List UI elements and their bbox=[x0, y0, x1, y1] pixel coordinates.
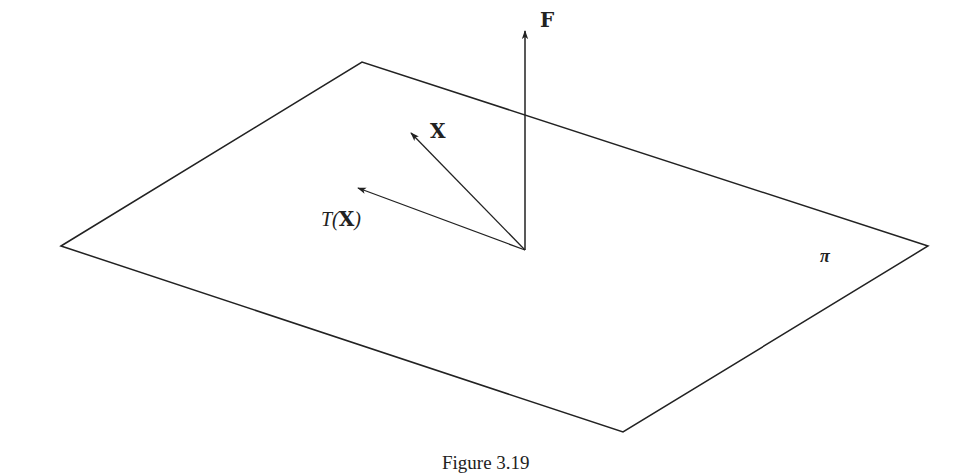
label-tx-x: X bbox=[339, 207, 355, 231]
figure-canvas: F X T(X) π Figure 3.19 bbox=[0, 0, 972, 474]
figure-caption: Figure 3.19 bbox=[442, 452, 530, 473]
label-f: F bbox=[540, 8, 554, 32]
label-x: X bbox=[430, 119, 446, 143]
label-pi: π bbox=[820, 246, 831, 266]
label-tx-prefix: T( bbox=[321, 208, 340, 231]
label-tx-suffix: ) bbox=[353, 208, 361, 231]
vector-tx-arrow bbox=[358, 188, 525, 250]
label-tx: T(X) bbox=[321, 207, 361, 231]
plane-pi bbox=[61, 62, 928, 432]
vector-x-arrow bbox=[411, 133, 525, 250]
